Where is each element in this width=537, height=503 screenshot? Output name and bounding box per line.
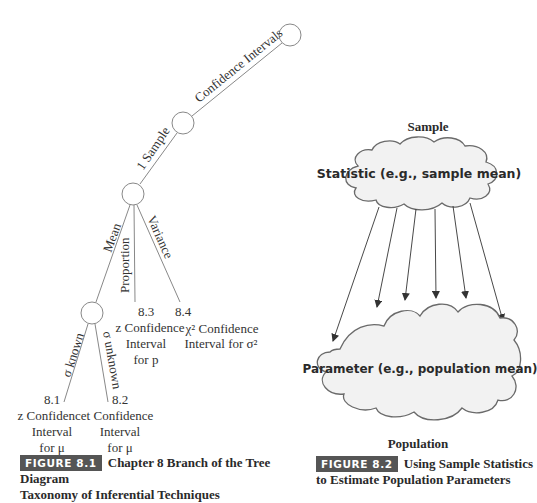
arrow-5 [453, 206, 466, 298]
leaf-8-1-line2: Interval [32, 424, 73, 439]
leaf-8-3-line2: Interval [126, 336, 167, 351]
leaf-8-3-line1: z Confidence [116, 320, 185, 335]
leaf-8-4-line2: Interval for σ² [185, 336, 258, 351]
arrow-1 [333, 207, 379, 341]
edge-label-proportion: Proportion [117, 237, 132, 293]
leaf-8-3-line3: for p [134, 352, 159, 367]
leaf-8-2-line1: t Confidence [87, 408, 154, 423]
figure-8-1-caption: FIGURE 8.1Chapter 8 Branch of the Tree D… [20, 455, 300, 503]
figure-8-1-tree [64, 24, 301, 402]
parameter-label: Parameter (e.g., population mean) [302, 362, 537, 376]
sample-heading: Sample [407, 119, 448, 134]
leaf-8-2-number: 8.2 [112, 392, 128, 407]
leaf-8-1-line1: z Confidence [18, 408, 87, 423]
leaf-8-2-line2: Interval [100, 424, 141, 439]
figure-8-2-caption-line2: to Estimate Population Parameters [316, 472, 511, 487]
figure-8-2-badge: FIGURE 8.2 [316, 456, 398, 472]
leaf-8-3-number: 8.3 [138, 304, 154, 319]
edge-confidence-intervals [192, 43, 282, 116]
edge-label-confidence-intervals: Confidence Intervals [191, 25, 285, 105]
arrow-4 [435, 209, 436, 298]
leaf-8-4-line1: χ² Confidence [185, 321, 259, 336]
edge-label-sigma-unknown: σ unknown [100, 330, 125, 391]
figure-8-1-badge: FIGURE 8.1 [20, 455, 102, 471]
node-mean [81, 302, 103, 324]
figure-8-1-caption-line2: Taxonomy of Inferential Techniques [20, 487, 220, 502]
figure-8-2-caption: FIGURE 8.2Using Sample Statistics to Est… [316, 456, 537, 488]
leaf-8-2: 8.2 t Confidence Interval for μ [87, 392, 154, 455]
edge-proportion [134, 205, 135, 302]
arrow-6 [470, 203, 503, 321]
leaf-8-1-number: 8.1 [44, 392, 60, 407]
leaf-8-4: 8.4 χ² Confidence Interval for σ² [175, 304, 259, 351]
edge-label-sigma-known: σ known [59, 330, 88, 379]
population-heading: Population [388, 436, 449, 451]
leaf-8-1-line3: for μ [39, 440, 64, 455]
statistic-label: Statistic (e.g., sample mean) [317, 166, 521, 181]
node-confidence-intervals [172, 112, 194, 134]
figure-8-2-caption-line1: Using Sample Statistics [404, 456, 533, 471]
arrow-2 [377, 208, 397, 307]
arrow-3 [405, 209, 416, 300]
leaf-8-4-number: 8.4 [175, 304, 192, 319]
leaf-8-1: 8.1 z Confidence Interval for μ [18, 392, 87, 455]
leaf-8-2-line3: for μ [107, 440, 132, 455]
node-one-sample [122, 183, 144, 205]
edge-label-variance: Variance [144, 213, 176, 261]
